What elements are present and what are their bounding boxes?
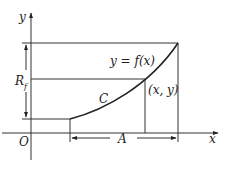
origin-label: O [19,135,29,149]
domain-label: A [117,132,127,146]
curve-label: C [99,92,108,106]
y-axis-label: y [18,10,26,24]
point-label: (x, y) [148,83,179,97]
x-axis-label: x [209,132,216,146]
range-label: R [14,74,24,88]
diagram-canvas: y x O y = f(x) C (x, y) R f A [0,0,225,176]
function-label: y = f(x) [109,54,155,68]
range-label-subscript: f [23,82,29,91]
